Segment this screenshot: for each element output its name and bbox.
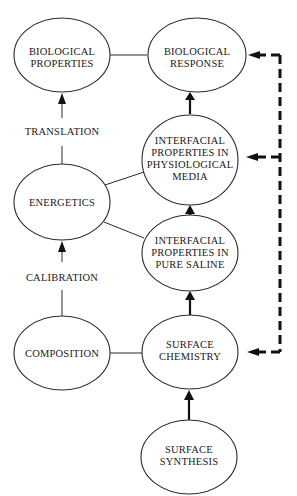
- arrowhead-icon: [184, 390, 194, 400]
- node-surface-chemistry: SURFACE CHEMISTRY: [142, 315, 238, 389]
- node-label: BIOLOGICAL: [29, 46, 95, 57]
- arrowhead-icon: [58, 241, 66, 252]
- flow-diagram: TRANSLATION CALIBRATION BIOLOGICAL PROPE…: [0, 0, 297, 496]
- node-label: PROPERTIES IN: [151, 247, 229, 258]
- arrowhead-icon: [248, 51, 260, 59]
- node-biological-properties: BIOLOGICAL PROPERTIES: [14, 18, 110, 92]
- node-interfacial-saline: INTERFACIAL PROPERTIES IN PURE SALINE: [142, 215, 238, 291]
- node-label: SURFACE: [165, 444, 213, 455]
- node-label: COMPOSITION: [25, 348, 99, 359]
- node-label: PROPERTIES: [30, 58, 93, 69]
- node-label: PROPERTIES IN: [151, 147, 229, 158]
- node-interfacial-physiological: INTERFACIAL PROPERTIES IN PHYSIOLOGICAL …: [142, 115, 238, 205]
- node-label: INTERFACIAL: [155, 235, 225, 246]
- node-label: SURFACE: [166, 339, 214, 350]
- edge-energetics-physiological: [105, 172, 144, 185]
- edge-energetics-saline: [104, 222, 144, 238]
- node-label: INTERFACIAL: [155, 135, 225, 146]
- node-label: CHEMISTRY: [159, 351, 221, 362]
- node-biological-response: BIOLOGICAL RESPONSE: [148, 18, 246, 92]
- arrowhead-icon: [58, 93, 66, 104]
- node-label: PHYSIOLOGICAL: [147, 159, 234, 170]
- node-label: BIOLOGICAL: [164, 46, 230, 57]
- node-label: ENERGETICS: [29, 197, 95, 208]
- node-label: SYNTHESIS: [160, 456, 218, 467]
- node-label: PURE SALINE: [156, 259, 225, 270]
- node-energetics: ENERGETICS: [14, 164, 110, 240]
- node-surface-synthesis: SURFACE SYNTHESIS: [141, 420, 237, 494]
- edge-label-translation: TRANSLATION: [25, 126, 100, 137]
- arrowhead-icon: [247, 348, 259, 356]
- arrowhead-icon: [185, 92, 195, 100]
- node-label: RESPONSE: [170, 58, 224, 69]
- arrowhead-icon: [185, 291, 195, 300]
- arrowhead-icon: [246, 153, 258, 161]
- arrowhead-icon: [185, 205, 195, 214]
- edge-label-calibration: CALIBRATION: [26, 272, 98, 283]
- node-composition: COMPOSITION: [14, 316, 110, 390]
- node-label: MEDIA: [172, 171, 208, 182]
